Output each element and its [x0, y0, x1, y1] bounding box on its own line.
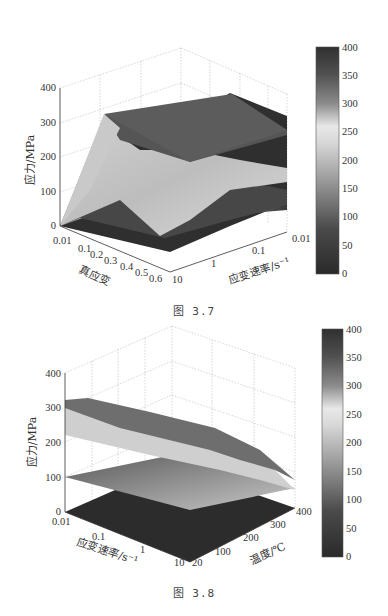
- svg-text:10: 10: [174, 557, 185, 568]
- svg-text:100: 100: [346, 494, 362, 505]
- y-axis-label-2: 温度/℃: [247, 539, 287, 568]
- svg-text:200: 200: [346, 437, 362, 448]
- figure-3-8: 0 100 200 300 400 应力/MPa 0.01 0.1 1 10 应…: [0, 0, 388, 616]
- svg-text:400: 400: [296, 506, 312, 517]
- svg-text:0.01: 0.01: [52, 516, 70, 527]
- svg-text:20: 20: [192, 557, 203, 568]
- z-axis-ticks-2: 0 100 200 300 400: [45, 368, 61, 517]
- svg-text:100: 100: [215, 546, 231, 557]
- svg-text:300: 300: [346, 380, 362, 391]
- z-axis-label-2: 应力/MPa: [25, 416, 39, 467]
- svg-text:250: 250: [346, 409, 362, 420]
- svg-text:100: 100: [45, 472, 61, 483]
- colorbar-2: [322, 329, 343, 557]
- svg-text:200: 200: [243, 532, 259, 543]
- svg-text:300: 300: [45, 402, 61, 413]
- svg-text:300: 300: [270, 519, 286, 530]
- svg-text:1: 1: [140, 544, 145, 555]
- svg-text:400: 400: [45, 368, 61, 379]
- x-axis-label-2: 应变速率/s⁻¹: [75, 535, 140, 568]
- svg-text:350: 350: [346, 352, 362, 363]
- figure-3-8-plot: 0 100 200 300 400 应力/MPa 0.01 0.1 1 10 应…: [0, 0, 388, 616]
- svg-text:150: 150: [346, 466, 362, 477]
- svg-text:50: 50: [346, 523, 357, 534]
- figure-caption-2: 图 3.8: [0, 584, 388, 600]
- colorbar-ticks-2: 0 50 100 150 200 250 300 350 400: [346, 324, 362, 562]
- svg-text:400: 400: [346, 324, 362, 335]
- svg-text:0: 0: [346, 551, 351, 562]
- svg-text:200: 200: [45, 437, 61, 448]
